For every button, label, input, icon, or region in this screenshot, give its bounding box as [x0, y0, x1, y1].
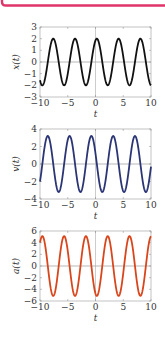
y-tick-label: −4	[24, 194, 38, 204]
y-tick-label: −2	[24, 80, 37, 90]
y-axis-label: v(t)	[11, 156, 21, 172]
y-tick-label: 2	[31, 142, 37, 152]
x-tick-label: 0	[93, 302, 99, 312]
x-tick-label: 5	[120, 302, 126, 312]
y-tick-label: −3	[24, 92, 38, 102]
x-tick-label: 0	[93, 200, 99, 210]
x-tick-label: 10	[145, 302, 157, 312]
y-tick-label: 2	[31, 34, 37, 44]
acceleration-chart-svg: −10−50510−6−4−20246ta(t)	[0, 220, 165, 330]
x-axis-label: t	[94, 313, 98, 323]
x-tick-label: 0	[93, 98, 99, 108]
x-tick-label: 10	[145, 98, 157, 108]
velocity-chart-svg: −10−50510−4−2024tv(t)	[0, 118, 165, 228]
position-chart-svg: −10−50510−3−2−10123tx(t)	[0, 16, 165, 126]
position-chart: −10−50510−3−2−10123tx(t)	[0, 16, 165, 118]
y-tick-label: −2	[24, 273, 37, 283]
y-tick-label: 4	[31, 238, 37, 248]
y-axis-label: a(t)	[11, 258, 21, 274]
velocity-chart: −10−50510−4−2024tv(t)	[0, 118, 165, 220]
x-tick-label: −5	[61, 302, 75, 312]
x-tick-label: 10	[145, 200, 157, 210]
y-axis-label: x(t)	[11, 54, 21, 70]
y-tick-label: 0	[31, 159, 37, 169]
y-tick-label: −1	[24, 69, 37, 79]
y-tick-label: 3	[31, 22, 37, 32]
top-border-frame	[0, 0, 165, 8]
y-tick-label: −4	[24, 284, 38, 294]
y-tick-label: 4	[31, 124, 37, 134]
y-tick-label: −2	[24, 177, 37, 187]
y-tick-label: 1	[31, 45, 37, 55]
x-tick-label: −5	[61, 98, 75, 108]
y-tick-label: −6	[24, 296, 38, 306]
x-tick-label: 5	[120, 98, 126, 108]
x-tick-label: 5	[120, 200, 126, 210]
acceleration-chart: −10−50510−6−4−20246ta(t)	[0, 220, 165, 322]
x-tick-label: −5	[61, 200, 75, 210]
y-tick-label: 0	[31, 57, 37, 67]
y-tick-label: 6	[31, 226, 37, 236]
y-tick-label: 0	[31, 261, 37, 271]
y-tick-label: 2	[31, 249, 37, 259]
